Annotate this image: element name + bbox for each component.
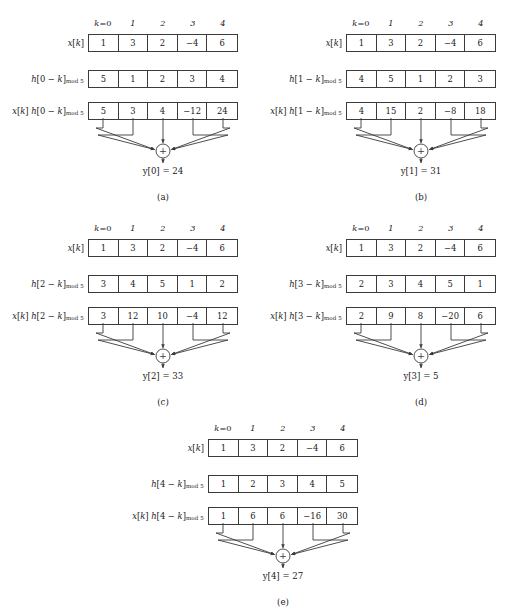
x-row-cell: −4 — [436, 240, 466, 256]
x-row-cell: 2 — [268, 440, 298, 456]
panel-caption: (a) — [88, 192, 238, 202]
panel-a: k=01234132−46x[k]51234h[0 − k]mod 5534−1… — [0, 8, 248, 213]
index-label-0: k=0 — [88, 221, 118, 235]
product-row-cell: 12 — [207, 308, 237, 324]
output-value: y[2] = 33 — [88, 371, 238, 381]
output-value: y[4] = 27 — [208, 571, 358, 581]
product-row-label: x[k] h[0 − k]mod 5 — [0, 102, 84, 122]
x-row-cell: 3 — [119, 35, 149, 51]
product-row-label: x[k] h[3 − k]mod 5 — [258, 307, 342, 327]
x-row-label: x[k] — [0, 239, 84, 257]
x-row: 132−46 — [88, 34, 238, 52]
index-header-row: k=01234 — [88, 16, 238, 30]
x-row-cell: 1 — [89, 35, 119, 51]
index-label-2: 2 — [268, 421, 298, 435]
panel-b: k=01234132−46x[k]45123h[1 − k]mod 54152−… — [258, 8, 506, 213]
index-label-4: 4 — [208, 221, 238, 235]
product-row-cell: 4 — [347, 103, 377, 119]
panel-c: k=01234132−46x[k]34512h[2 − k]mod 531210… — [0, 213, 248, 418]
index-label-2: 2 — [406, 16, 436, 30]
product-row-cell: 3 — [89, 308, 119, 324]
adder-tree: + — [200, 523, 368, 569]
index-header-row: k=01234 — [346, 221, 496, 235]
x-row-cell: 6 — [207, 35, 237, 51]
svg-text:+: + — [159, 145, 167, 156]
h-row-label: h[0 − k]mod 5 — [0, 70, 84, 90]
panel-caption: (c) — [88, 397, 238, 407]
h-row-cell: 4 — [298, 476, 328, 492]
index-label-0: k=0 — [346, 16, 376, 30]
h-row-cell: 3 — [465, 71, 495, 87]
h-row-cell: 3 — [178, 71, 208, 87]
x-row-cell: 1 — [347, 35, 377, 51]
index-label-1: 1 — [118, 221, 148, 235]
h-row-cell: 4 — [347, 71, 377, 87]
product-row-cell: 3 — [119, 103, 149, 119]
x-row-cell: −4 — [298, 440, 328, 456]
product-row-cell: 4 — [148, 103, 178, 119]
svg-text:+: + — [417, 350, 425, 361]
h-row-label: h[4 − k]mod 5 — [120, 475, 204, 495]
h-row-cell: 5 — [436, 276, 466, 292]
output-value: y[1] = 31 — [346, 166, 496, 176]
x-row: 132−46 — [346, 34, 496, 52]
x-row-label: x[k] — [120, 439, 204, 457]
x-row-cell: 2 — [148, 240, 178, 256]
h-row-cell: 1 — [465, 276, 495, 292]
x-row-label: x[k] — [258, 239, 342, 257]
x-row-label: x[k] — [258, 34, 342, 52]
h-row-cell: 1 — [119, 71, 149, 87]
svg-text:+: + — [279, 550, 287, 561]
x-row-cell: 3 — [377, 35, 407, 51]
product-row-cell: 6 — [239, 508, 269, 524]
x-row-label: x[k] — [0, 34, 84, 52]
product-row-cell: 6 — [268, 508, 298, 524]
index-label-2: 2 — [148, 221, 178, 235]
panel-caption: (d) — [346, 397, 496, 407]
h-row-cell: 5 — [327, 476, 357, 492]
index-label-4: 4 — [466, 221, 496, 235]
product-row-cell: 24 — [207, 103, 237, 119]
h-row-cell: 3 — [268, 476, 298, 492]
index-label-2: 2 — [148, 16, 178, 30]
index-label-3: 3 — [298, 421, 328, 435]
h-row: 34512 — [88, 275, 238, 293]
product-row-cell: −12 — [178, 103, 208, 119]
h-row-cell: 1 — [178, 276, 208, 292]
h-row-label: h[1 − k]mod 5 — [258, 70, 342, 90]
index-label-3: 3 — [436, 221, 466, 235]
h-row: 51234 — [88, 70, 238, 88]
product-row-cell: 5 — [89, 103, 119, 119]
index-header-row: k=01234 — [208, 421, 358, 435]
x-row-cell: 1 — [89, 240, 119, 256]
output-value: y[3] = 5 — [346, 371, 496, 381]
product-row-cell: −4 — [178, 308, 208, 324]
index-label-1: 1 — [118, 16, 148, 30]
x-row-cell: 6 — [465, 35, 495, 51]
h-row-cell: 2 — [347, 276, 377, 292]
output-value: y[0] = 24 — [88, 166, 238, 176]
x-row-cell: 6 — [327, 440, 357, 456]
panel-e: k=01234132−46x[k]12345h[4 − k]mod 5166−1… — [120, 413, 368, 612]
product-row-cell: 18 — [465, 103, 495, 119]
svg-text:+: + — [159, 350, 167, 361]
x-row: 132−46 — [346, 239, 496, 257]
index-label-0: k=0 — [208, 421, 238, 435]
x-row-cell: −4 — [178, 35, 208, 51]
x-row-cell: 1 — [347, 240, 377, 256]
product-row-label: x[k] h[1 − k]mod 5 — [258, 102, 342, 122]
adder-tree: + — [338, 118, 506, 164]
h-row-cell: 5 — [148, 276, 178, 292]
index-label-4: 4 — [208, 16, 238, 30]
index-label-3: 3 — [178, 221, 208, 235]
index-label-1: 1 — [376, 221, 406, 235]
adder-tree: + — [80, 118, 248, 164]
h-row-cell: 4 — [406, 276, 436, 292]
h-row-cell: 1 — [406, 71, 436, 87]
x-row-cell: 3 — [119, 240, 149, 256]
x-row-cell: 3 — [239, 440, 269, 456]
index-header-row: k=01234 — [346, 16, 496, 30]
product-row-cell: −16 — [298, 508, 328, 524]
index-label-2: 2 — [406, 221, 436, 235]
panel-caption: (b) — [346, 192, 496, 202]
